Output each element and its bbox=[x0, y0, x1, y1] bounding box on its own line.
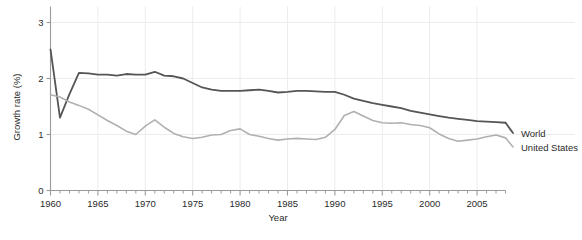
y-axis-tick-label: 1 bbox=[38, 129, 43, 140]
x-axis-tick-label: 1985 bbox=[277, 198, 298, 209]
x-axis-tick-label: 2000 bbox=[419, 198, 440, 209]
y-axis-tick-label: 0 bbox=[38, 185, 43, 196]
series-layer bbox=[51, 49, 506, 141]
x-axis-tick-label: 1995 bbox=[372, 198, 393, 209]
axes-layer bbox=[51, 7, 506, 191]
legend-layer: WorldUnited States bbox=[506, 123, 579, 153]
x-axis-tick-label: 1965 bbox=[87, 198, 108, 209]
x-axis-tick-label: 1980 bbox=[230, 198, 251, 209]
legend-label-world: World bbox=[521, 128, 546, 139]
x-axis-title: Year bbox=[268, 212, 287, 223]
x-axis-tick-label: 1960 bbox=[40, 198, 61, 209]
legend-label-united-states: United States bbox=[521, 142, 578, 153]
y-axis-title: Growth rate (%) bbox=[11, 73, 22, 140]
y-axis-tick-label: 3 bbox=[38, 17, 43, 28]
series-line-world bbox=[51, 49, 506, 122]
y-axis-tick-label: 2 bbox=[38, 73, 43, 84]
x-axis-tick-label: 1970 bbox=[135, 198, 156, 209]
legend-connector-world bbox=[506, 123, 514, 133]
legend-connector-united-states bbox=[506, 138, 514, 147]
growth-rate-line-chart: 0123196019651970197519801985199019952000… bbox=[0, 0, 582, 240]
x-axis-tick-label: 1990 bbox=[324, 198, 345, 209]
chart-canvas: 0123196019651970197519801985199019952000… bbox=[0, 0, 582, 240]
gridlines-layer bbox=[51, 7, 576, 191]
x-axis-tick-label: 2005 bbox=[466, 198, 487, 209]
x-axis-tick-label: 1975 bbox=[182, 198, 203, 209]
ticks-layer bbox=[47, 23, 506, 196]
